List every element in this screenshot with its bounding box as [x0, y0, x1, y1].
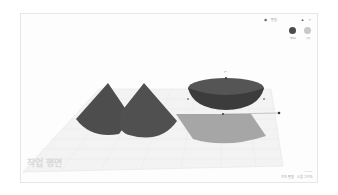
scene[interactable]: 작업 평면 ↶ — [21, 14, 318, 183]
edit-grid-button[interactable]: 격자 편집 — [281, 175, 294, 179]
snap-grid-button[interactable]: 스냅 그리드 — [297, 175, 313, 179]
light-icon[interactable]: ○ — [309, 17, 311, 22]
shape-colors: 솔리드 구멍 — [289, 27, 311, 40]
workplane-watermark: 작업 평면 — [27, 157, 62, 168]
lock-icon[interactable]: ▲ — [301, 17, 305, 22]
solid-swatch[interactable]: 솔리드 — [289, 27, 296, 40]
solid-color-icon — [289, 27, 296, 34]
home-view-icon[interactable]: ◆ — [264, 17, 267, 22]
hole-color-icon — [304, 27, 311, 34]
footer: 격자 편집 스냅 그리드 — [281, 175, 313, 179]
3d-viewport[interactable]: 작업 평면 ↶ — [21, 14, 317, 182]
edit-label: 편집 — [271, 18, 277, 22]
rotate-handle[interactable]: ↶ — [224, 70, 227, 74]
top-toolbar: ◆ 편집 ▲ ○ — [264, 17, 311, 22]
grid-size: 1.0 mm — [304, 170, 312, 173]
editor-frame: 작업 평면 ↶ ◆ 편집 ▲ ○ — [20, 13, 318, 183]
hole-swatch[interactable]: 구멍 — [304, 27, 311, 40]
